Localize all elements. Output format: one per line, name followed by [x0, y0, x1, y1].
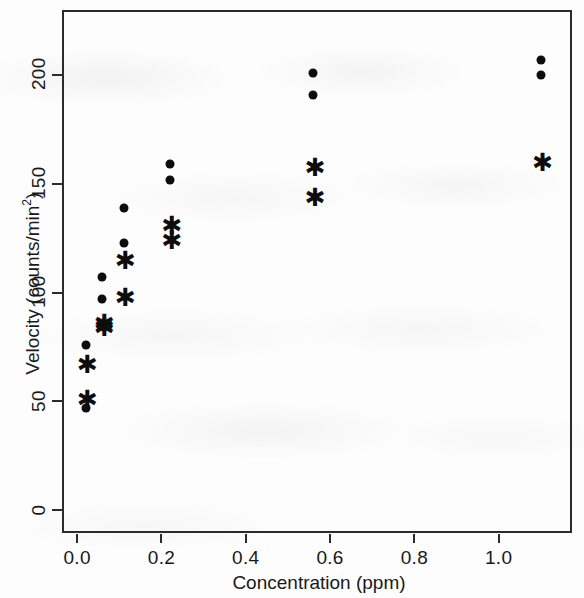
x-tick-mark — [329, 534, 331, 543]
x-axis-label: Concentration (ppm) — [0, 572, 584, 594]
data-point-treated — [165, 175, 174, 184]
data-point-untreated: ✱ — [77, 391, 94, 408]
x-tick-mark — [498, 534, 500, 543]
y-axis-label: Velocity (counts/min2) — [20, 134, 43, 434]
data-point-untreated: ✱ — [77, 356, 94, 373]
x-tick-mark — [160, 534, 162, 543]
data-point-untreated: ✱ — [115, 251, 132, 268]
data-point-untreated: ✱ — [305, 158, 322, 175]
x-tick-mark — [245, 534, 247, 543]
x-tick-label: 0.4 — [232, 547, 259, 569]
data-point-treated — [536, 55, 545, 64]
plot-data-area: ✱✱✱✱✱✱✱✱✱✱✱ — [62, 10, 572, 533]
data-point-treated — [309, 69, 318, 78]
x-tick-label: 0.8 — [401, 547, 428, 569]
x-tick-mark — [76, 534, 78, 543]
data-point-treated — [81, 340, 90, 349]
x-tick-label: 0.2 — [148, 547, 175, 569]
y-tick-mark — [52, 400, 62, 402]
y-axis-label-tail: ) — [22, 193, 43, 199]
y-tick-label: 0 — [28, 495, 50, 525]
y-tick-mark — [52, 509, 62, 511]
data-point-treated — [309, 90, 318, 99]
data-point-treated — [98, 295, 107, 304]
y-tick-mark — [52, 183, 62, 185]
data-point-untreated: ✱ — [115, 288, 132, 305]
x-tick-label: 0.6 — [316, 547, 343, 569]
y-tick-label: 200 — [28, 60, 50, 90]
x-tick-label: 1.0 — [485, 547, 512, 569]
data-point-treated — [165, 160, 174, 169]
data-point-treated — [98, 273, 107, 282]
data-point-untreated: ✱ — [305, 188, 322, 205]
y-tick-mark — [52, 292, 62, 294]
data-point-untreated: ✱ — [161, 232, 178, 249]
x-axis-label-text: Concentration (ppm) — [232, 572, 405, 593]
y-tick-mark — [52, 74, 62, 76]
data-point-untreated: ✱ — [94, 315, 111, 332]
data-point-untreated: ✱ — [532, 154, 549, 171]
scatter-plot-figure: ✱✱✱✱✱✱✱✱✱✱✱ 0.00.20.40.60.81.0 050100150… — [0, 0, 584, 598]
data-point-treated — [119, 203, 128, 212]
x-tick-mark — [413, 534, 415, 543]
x-tick-label: 0.0 — [64, 547, 91, 569]
y-axis-label-exponent: 2 — [20, 199, 34, 206]
data-point-treated — [536, 71, 545, 80]
y-axis-label-text: Velocity (counts/min — [22, 206, 43, 375]
